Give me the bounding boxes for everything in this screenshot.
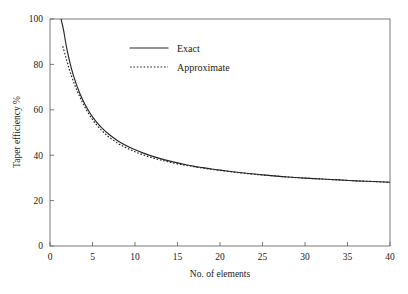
x-tick-label: 5 [90,252,95,262]
legend-label-exact: Exact [177,43,200,54]
x-tick-label: 10 [130,252,140,262]
x-axis-ticks [50,242,390,246]
y-axis-tick-labels: 020406080100 [29,14,44,251]
y-tick-label: 100 [29,14,44,24]
x-axis-tick-labels: 0510152025303540 [48,252,395,262]
x-axis-title: No. of elements [190,269,251,279]
x-tick-label: 30 [300,252,310,262]
y-tick-label: 60 [34,105,44,115]
y-tick-label: 20 [34,196,44,206]
data-series-layer [61,19,390,182]
x-tick-label: 15 [173,252,183,262]
chart-canvas: 0510152025303540 020406080100 No. of ele… [0,0,408,294]
x-tick-label: 25 [258,252,268,262]
x-tick-label: 40 [385,252,395,262]
y-tick-label: 0 [38,241,43,251]
plot-frame [50,19,390,246]
chart-legend: Exact Approximate [130,43,230,73]
y-axis-title: Taper efficiency % [12,96,22,168]
y-tick-label: 40 [34,151,44,161]
x-tick-label: 20 [215,252,225,262]
y-tick-label: 80 [34,60,44,70]
chart-figure: 0510152025303540 020406080100 No. of ele… [0,0,408,294]
x-tick-label: 0 [48,252,53,262]
y-axis-ticks [50,19,54,246]
series-exact [61,19,390,182]
x-tick-label: 35 [343,252,353,262]
legend-label-approximate: Approximate [177,62,230,73]
